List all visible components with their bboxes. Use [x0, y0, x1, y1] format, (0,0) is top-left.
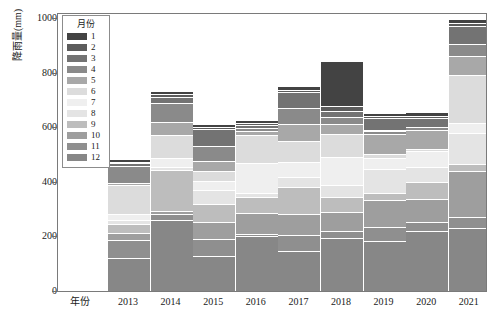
bar-2021 — [449, 14, 486, 291]
legend-item-8[interactable]: 8 — [67, 108, 105, 119]
bar-segment — [193, 190, 235, 204]
legend-item-10[interactable]: 10 — [67, 130, 105, 141]
legend-swatch — [67, 44, 87, 51]
legend-item-12[interactable]: 12 — [67, 152, 105, 163]
bar-segment — [108, 220, 150, 224]
bar-segment — [151, 167, 193, 171]
bar-segment — [193, 129, 235, 146]
bar-segment — [321, 185, 363, 197]
legend-item-4[interactable]: 4 — [67, 64, 105, 75]
legend-label: 8 — [91, 108, 96, 119]
bar-segment — [278, 86, 320, 90]
bar-segment — [193, 146, 235, 161]
legend-label: 1 — [91, 31, 96, 42]
bar-segment — [449, 75, 486, 123]
bar-segment — [278, 251, 320, 291]
bar-segment — [406, 127, 448, 130]
bar-segment — [364, 134, 406, 154]
bar-segment — [108, 162, 150, 164]
legend-label: 2 — [91, 42, 96, 53]
bar-segment — [193, 256, 235, 291]
bar-segment — [236, 131, 278, 135]
bar-segment — [321, 117, 363, 124]
legend-label: 7 — [91, 97, 96, 108]
legend: 月份 123456789101112 — [62, 15, 110, 168]
legend-label: 11 — [91, 141, 100, 152]
legend-swatch — [67, 88, 87, 95]
bar-segment — [406, 116, 448, 118]
bar-segment — [449, 171, 486, 217]
bar-segment — [449, 123, 486, 133]
bars-container — [58, 14, 486, 291]
plot-area — [57, 13, 487, 292]
legend-item-5[interactable]: 5 — [67, 75, 105, 86]
bar-segment — [151, 170, 193, 211]
bar-segment — [406, 118, 448, 127]
bar-segment — [449, 26, 486, 44]
bar-segment — [108, 166, 150, 183]
legend-swatch — [67, 110, 87, 117]
bar-segment — [193, 204, 235, 223]
bar-segment — [321, 238, 363, 292]
legend-item-11[interactable]: 11 — [67, 141, 105, 152]
bar-segment — [151, 135, 193, 158]
bar-segment — [151, 122, 193, 135]
bar-segment — [278, 235, 320, 251]
legend-swatch — [67, 121, 87, 128]
bar-segment — [321, 111, 363, 117]
bar-segment — [151, 214, 193, 220]
legend-item-2[interactable]: 2 — [67, 42, 105, 53]
bar-segment — [321, 106, 363, 111]
bar-segment — [278, 90, 320, 92]
y-axis-title: 降雨量(mm) — [13, 0, 23, 75]
bar-segment — [108, 258, 150, 291]
bar-segment — [193, 239, 235, 256]
bar-segment — [151, 97, 193, 103]
legend-item-7[interactable]: 7 — [67, 97, 105, 108]
legend-swatch — [67, 143, 87, 150]
bar-segment — [193, 171, 235, 181]
bar-segment — [108, 159, 150, 161]
bar-segment — [278, 108, 320, 124]
legend-item-1[interactable]: 1 — [67, 31, 105, 42]
bar-segment — [278, 141, 320, 162]
legend-item-9[interactable]: 9 — [67, 119, 105, 130]
bar-segment — [406, 149, 448, 152]
legend-rows: 123456789101112 — [67, 31, 105, 163]
bar-segment — [278, 187, 320, 214]
bar-segment — [449, 23, 486, 26]
bar-segment — [278, 214, 320, 235]
bar-segment — [406, 231, 448, 291]
bar-segment — [151, 211, 193, 214]
legend-label: 10 — [91, 130, 100, 141]
bar-2016 — [236, 14, 278, 291]
legend-item-3[interactable]: 3 — [67, 53, 105, 64]
bar-segment — [108, 224, 150, 233]
x-axis-title: 年份 — [58, 297, 102, 307]
bar-segment — [364, 169, 406, 193]
legend-label: 5 — [91, 75, 96, 86]
legend-swatch — [67, 99, 87, 106]
legend-label: 12 — [91, 152, 100, 163]
bar-segment — [236, 135, 278, 163]
bar-segment — [449, 133, 486, 164]
bar-segment — [278, 162, 320, 177]
bar-2013 — [108, 14, 150, 291]
legend-title: 月份 — [67, 19, 105, 30]
bar-segment — [193, 161, 235, 171]
bar-segment — [108, 163, 150, 166]
bar-segment — [321, 231, 363, 238]
bar-segment — [108, 185, 150, 214]
bar-2018 — [321, 14, 363, 291]
legend-label: 6 — [91, 86, 96, 97]
bar-2020 — [406, 14, 448, 291]
bar-segment — [236, 213, 278, 234]
legend-item-6[interactable]: 6 — [67, 86, 105, 97]
bar-segment — [406, 130, 448, 149]
bar-segment — [321, 134, 363, 157]
bar-segment — [108, 183, 150, 185]
bar-2017 — [278, 14, 320, 291]
bar-segment — [449, 164, 486, 171]
legend-swatch — [67, 154, 87, 161]
legend-swatch — [67, 77, 87, 84]
